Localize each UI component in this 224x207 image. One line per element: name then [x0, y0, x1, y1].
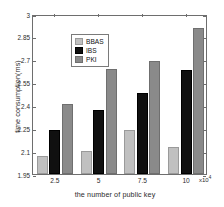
x-axis-multiplier-exponent: 4	[209, 175, 212, 180]
bar-pki-10	[193, 28, 204, 174]
y-tick-mark-right	[203, 16, 206, 17]
y-tick-label: 2.25	[18, 126, 30, 133]
y-tick-mark	[33, 107, 36, 108]
y-tick-label: 2.4	[21, 103, 30, 110]
x-tick-mark-top	[186, 14, 187, 17]
legend-swatch-icon	[75, 38, 83, 45]
y-tick-mark	[33, 38, 36, 39]
x-axis-label: the number of public key	[26, 190, 204, 199]
x-tick-mark-top	[98, 14, 99, 17]
x-tick-label: 2.5	[41, 177, 69, 184]
legend-label: BBAS	[86, 37, 104, 46]
bar-pki-5	[106, 69, 117, 174]
bar-bbas-7.5	[124, 130, 135, 174]
bar-bbas-10	[168, 147, 179, 174]
figure: time consumption(ms) the number of publi…	[0, 0, 224, 207]
x-tick-mark-top	[54, 14, 55, 17]
legend-item-bbas[interactable]: BBAS	[75, 37, 104, 46]
legend: BBASIBSPKI	[71, 34, 109, 67]
bar-pki-7.5	[149, 61, 160, 174]
bar-ibs-5	[93, 110, 104, 174]
y-tick-mark	[33, 176, 36, 177]
y-tick-mark	[33, 153, 36, 154]
plot-area: 1.952.12.252.42.552.72.853 2.557.510 BBA…	[32, 15, 207, 175]
bar-bbas-5	[81, 151, 92, 174]
legend-swatch-icon	[75, 56, 83, 63]
x-tick-label: 10	[172, 177, 200, 184]
y-tick-label: 1.95	[18, 172, 30, 179]
y-tick-mark	[33, 130, 36, 131]
y-tick-label: 2.55	[18, 80, 30, 87]
y-tick-mark	[33, 16, 36, 17]
legend-label: IBS	[86, 46, 97, 55]
legend-label: PKI	[86, 55, 97, 64]
x-tick-label: 7.5	[128, 177, 156, 184]
bar-ibs-7.5	[137, 93, 148, 174]
y-axis-label: time consumption(ms)	[13, 27, 22, 167]
x-tick-label: 5	[85, 177, 113, 184]
y-tick-mark	[33, 84, 36, 85]
x-tick-mark-top	[142, 14, 143, 17]
x-axis-multiplier-base: x10	[199, 177, 209, 183]
y-tick-mark-right	[203, 176, 206, 177]
bar-pki-2.5	[62, 104, 73, 174]
bar-ibs-10	[181, 70, 192, 174]
bar-bbas-2.5	[37, 156, 48, 174]
legend-item-ibs[interactable]: IBS	[75, 46, 104, 55]
y-tick-label: 2.85	[18, 34, 30, 41]
legend-swatch-icon	[75, 47, 83, 54]
y-tick-label: 3	[26, 12, 30, 19]
legend-item-pki[interactable]: PKI	[75, 55, 104, 64]
y-tick-label: 2.1	[21, 149, 30, 156]
y-tick-label: 2.7	[21, 57, 30, 64]
bar-ibs-2.5	[49, 130, 60, 174]
y-tick-mark	[33, 61, 36, 62]
